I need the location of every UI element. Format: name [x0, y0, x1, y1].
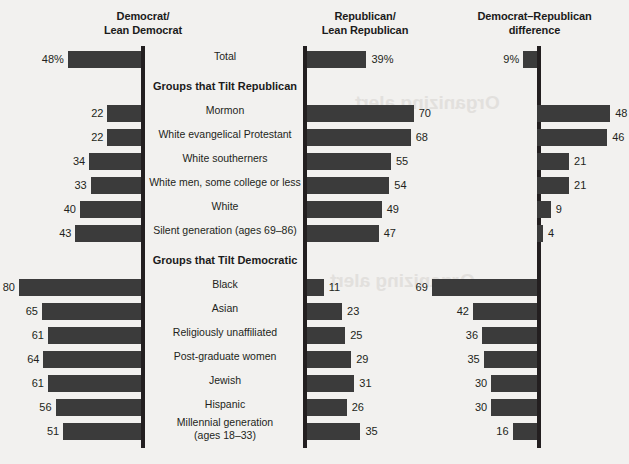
column-header-democrat: Democrat/ Lean Democrat [40, 10, 246, 37]
row-label-line1: Millennial generation [147, 416, 303, 429]
column-header-republican-line2: Lean Republican [275, 24, 455, 38]
chart-row: 335421White men, some college or less [0, 174, 629, 198]
row-label: White men, some college or less [147, 176, 303, 189]
bar-republican [307, 303, 342, 320]
bar-difference [484, 351, 537, 368]
chart-row: 40499White [0, 198, 629, 222]
bar-difference [513, 423, 537, 440]
section-header-democratic-tilt: Groups that Tilt Democratic [147, 254, 303, 266]
value-republican: 35 [365, 423, 405, 440]
chart-row: 345521White southerners [0, 150, 629, 174]
bar-difference [491, 399, 537, 416]
bar-democrat [19, 279, 141, 296]
value-democrat: 61 [4, 327, 44, 344]
value-republican: 70 [419, 105, 459, 122]
bar-democrat [63, 423, 141, 440]
row-label: Hispanic [147, 398, 303, 411]
bar-difference [537, 105, 610, 122]
chart-row: 652342Asian [0, 300, 629, 324]
bar-republican [307, 225, 379, 242]
bar-difference [537, 129, 607, 146]
bar-republican [307, 129, 411, 146]
section-header-republican-tilt: Groups that Tilt Republican [147, 80, 303, 92]
bar-republican [307, 279, 324, 296]
value-republican: 26 [352, 399, 392, 416]
column-header-difference: Democrat–Republican difference [440, 10, 629, 37]
bar-democrat [43, 351, 141, 368]
bar-difference [537, 225, 543, 242]
row-label: White evangelical Protestant [147, 128, 303, 141]
bar-difference [537, 153, 569, 170]
value-republican: 11 [329, 279, 369, 296]
row-label: Millennial generation(ages 18–33) [147, 416, 303, 442]
bar-difference [537, 177, 569, 194]
value-democrat: 80 [0, 279, 15, 296]
chart-row: 801169Black [0, 276, 629, 300]
bar-democrat [56, 399, 141, 416]
row-label: Asian [147, 302, 303, 315]
value-republican: 47 [384, 225, 424, 242]
value-difference: 30 [447, 375, 487, 392]
value-republican: 49 [387, 201, 427, 218]
value-republican: 54 [394, 177, 434, 194]
value-democrat: 64 [0, 351, 39, 368]
bar-republican [307, 153, 391, 170]
bar-democrat [42, 303, 141, 320]
value-democrat: 34 [45, 153, 85, 170]
bar-republican [307, 327, 345, 344]
bar-democrat [68, 51, 141, 68]
value-difference: 4 [548, 225, 588, 242]
value-republican: 31 [359, 375, 399, 392]
bar-democrat [75, 225, 141, 242]
chart-row: 227048Mormon [0, 102, 629, 126]
value-democrat: 48% [24, 51, 64, 68]
bar-democrat [80, 201, 141, 218]
column-header-difference-line1: Democrat–Republican [440, 10, 629, 24]
value-difference: 69 [388, 279, 428, 296]
bar-difference [523, 51, 537, 68]
row-label: Religiously unaffiliated [147, 326, 303, 339]
value-difference: 16 [469, 423, 509, 440]
row-label: White [147, 200, 303, 213]
row-label: Mormon [147, 104, 303, 117]
column-header-republican: Republican/ Lean Republican [275, 10, 455, 37]
bar-republican [307, 177, 389, 194]
bar-difference [473, 303, 537, 320]
value-democrat: 22 [63, 105, 103, 122]
bar-republican [307, 399, 347, 416]
chart-row: 612536Religiously unaffiliated [0, 324, 629, 348]
value-difference: 35 [440, 351, 480, 368]
value-democrat: 56 [12, 399, 52, 416]
bar-democrat [48, 375, 141, 392]
value-democrat: 65 [0, 303, 38, 320]
bar-republican [307, 375, 354, 392]
value-difference: 21 [574, 153, 614, 170]
row-label: Jewish [147, 374, 303, 387]
value-democrat: 22 [63, 129, 103, 146]
value-difference: 21 [574, 177, 614, 194]
row-label: Post-graduate women [147, 350, 303, 363]
chart-row: 642935Post-graduate women [0, 348, 629, 372]
chart-row: 562630Hispanic [0, 396, 629, 420]
bar-republican [307, 105, 414, 122]
column-header-democrat-line2: Lean Democrat [40, 24, 246, 38]
row-label: Black [147, 278, 303, 291]
column-header-difference-line2: difference [440, 24, 629, 38]
value-republican: 29 [356, 351, 396, 368]
value-republican: 55 [396, 153, 436, 170]
bar-difference [482, 327, 537, 344]
bar-difference [432, 279, 537, 296]
bar-democrat [48, 327, 141, 344]
chart-row: 613130Jewish [0, 372, 629, 396]
value-democrat: 33 [47, 177, 87, 194]
bar-democrat [107, 105, 141, 122]
column-header-republican-line1: Republican/ [275, 10, 455, 24]
chart-row: 513516Millennial generation(ages 18–33) [0, 420, 629, 444]
value-republican: 23 [347, 303, 387, 320]
row-label: White southerners [147, 152, 303, 165]
bar-democrat [89, 153, 141, 170]
bar-republican [307, 51, 366, 68]
bar-difference [537, 201, 551, 218]
bar-republican [307, 423, 360, 440]
bar-republican [307, 201, 382, 218]
